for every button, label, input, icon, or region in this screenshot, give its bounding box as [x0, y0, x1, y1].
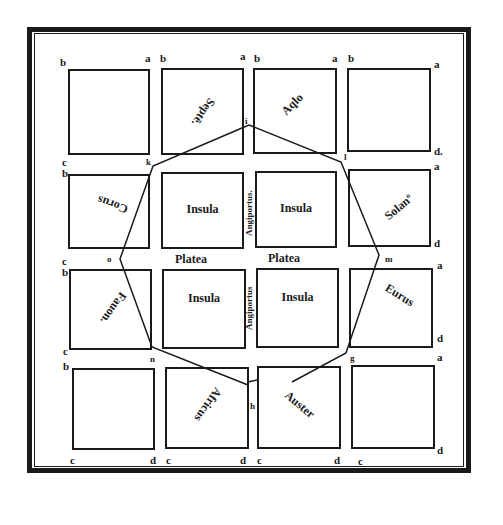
corner-letter: c — [70, 454, 75, 466]
insula-label: Insula — [186, 202, 218, 216]
octagon-point-label: o — [107, 254, 112, 264]
corner-letter: b — [60, 56, 66, 68]
city-block — [352, 366, 434, 448]
insula-label: Insula — [188, 291, 220, 305]
octagon-point-labels: ilmghnok — [107, 116, 393, 411]
insula-label: Insula — [280, 201, 312, 215]
city-block — [163, 270, 245, 348]
wind-label: Corus — [95, 193, 130, 217]
corner-letter: d — [437, 444, 443, 456]
corner-letter: c — [257, 454, 262, 466]
corner-letter: c — [166, 454, 171, 466]
octagon-point-label: k — [146, 157, 151, 167]
wind-label: Fauon. — [98, 290, 130, 327]
wind-label: Septē. — [189, 96, 218, 129]
octagon-point-label: m — [385, 254, 393, 264]
corner-letter: d — [334, 454, 340, 466]
city-block — [257, 269, 338, 347]
corner-letter: d. — [434, 145, 443, 157]
wind-label: Africus — [191, 385, 224, 424]
corner-letter: b — [160, 52, 166, 64]
corner-letter: b — [62, 167, 68, 179]
street-label-angiportus-bottom: Angiportus — [244, 286, 254, 330]
city-plan-diagram: babababad.cbadcbadcbacdcdcdcd ilmghnok P… — [0, 0, 503, 525]
corner-letter: c — [63, 345, 68, 357]
corner-letter: d — [240, 454, 246, 466]
octagon-wind-path — [120, 125, 379, 385]
corner-letter: b — [348, 52, 354, 64]
octagon-point-label: l — [344, 152, 347, 162]
corner-letter: a — [434, 58, 440, 70]
corner-letter: a — [434, 160, 440, 172]
corner-letter: a — [145, 52, 151, 64]
corner-letter: d — [434, 237, 440, 249]
corner-letter: c — [358, 455, 363, 467]
corner-letter: d — [437, 332, 443, 344]
city-block — [348, 69, 430, 151]
corner-letter: b — [63, 360, 69, 372]
street-label-angiportus-top: Angiportus. — [244, 190, 254, 236]
corner-letter: b — [254, 52, 260, 64]
city-block — [73, 369, 154, 449]
octagon-point-label: g — [350, 353, 355, 363]
corner-letter: a — [437, 259, 443, 271]
corner-letter: d — [150, 454, 156, 466]
wind-label: Aqlo — [278, 90, 305, 117]
city-block — [69, 70, 149, 154]
street-label-platea-right: Platea — [268, 251, 300, 265]
street-label-platea-left: Platea — [175, 252, 207, 266]
wind-label: Auster — [282, 388, 318, 421]
octagon-point-label: n — [150, 354, 155, 364]
corner-letter: b — [62, 266, 68, 278]
octagon-point-label: i — [245, 116, 248, 126]
wind-label: Eurus — [383, 281, 417, 310]
corner-letter: a — [332, 52, 338, 64]
corner-letter: a — [240, 50, 246, 62]
octagon-point-label: h — [250, 401, 255, 411]
corner-letter: a — [437, 351, 443, 363]
wind-label: Solanº — [382, 191, 416, 223]
insula-label: Insula — [281, 290, 313, 304]
block-labels: Septē.AqloCorusInsulaInsulaSolanºFauon.I… — [95, 90, 417, 424]
